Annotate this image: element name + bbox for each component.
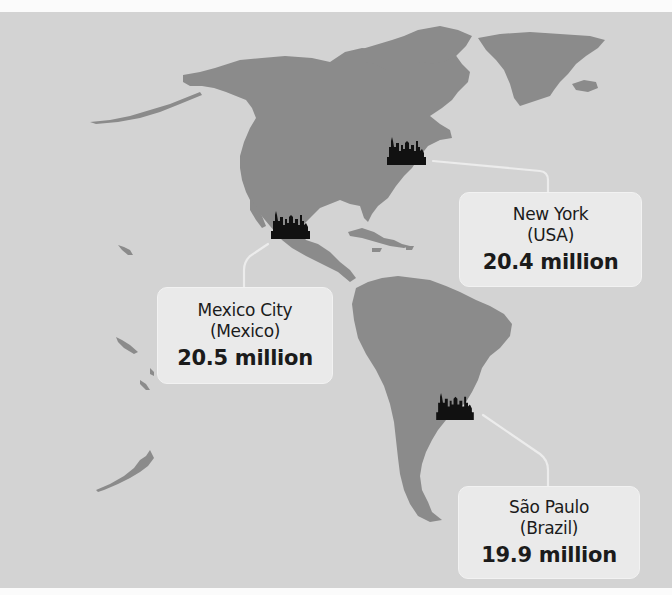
population-value: 19.9 million [481,541,617,569]
city-name: São Paulo [509,497,589,518]
country-name: (Mexico) [210,321,280,342]
iceland-land [572,80,598,92]
callout-sao-paulo: São Paulo (Brazil) 19.9 million [458,486,640,579]
aleutian-islands-land [90,92,202,124]
city-name: New York [513,204,588,225]
hawaii-land [118,245,133,255]
callout-mexico-city: Mexico City (Mexico) 20.5 million [157,287,333,384]
callout-new-york: New York (USA) 20.4 million [459,192,642,287]
north-america-land [183,38,470,282]
country-name: (Brazil) [520,518,578,539]
americas-map: New York (USA) 20.4 million Mexico City … [0,12,672,588]
greenland-land [478,32,605,106]
city-name: Mexico City [198,300,293,321]
new-zealand-land [96,450,154,492]
population-value: 20.5 million [177,344,313,372]
city-skyline-icon[interactable] [271,211,310,239]
country-name: (USA) [527,225,574,246]
pacific-islands-land [116,337,154,390]
caribbean-islands-land [348,228,414,252]
population-value: 20.4 million [483,248,619,276]
city-skyline-icon[interactable] [387,137,426,165]
city-skyline-icon[interactable] [436,393,474,420]
